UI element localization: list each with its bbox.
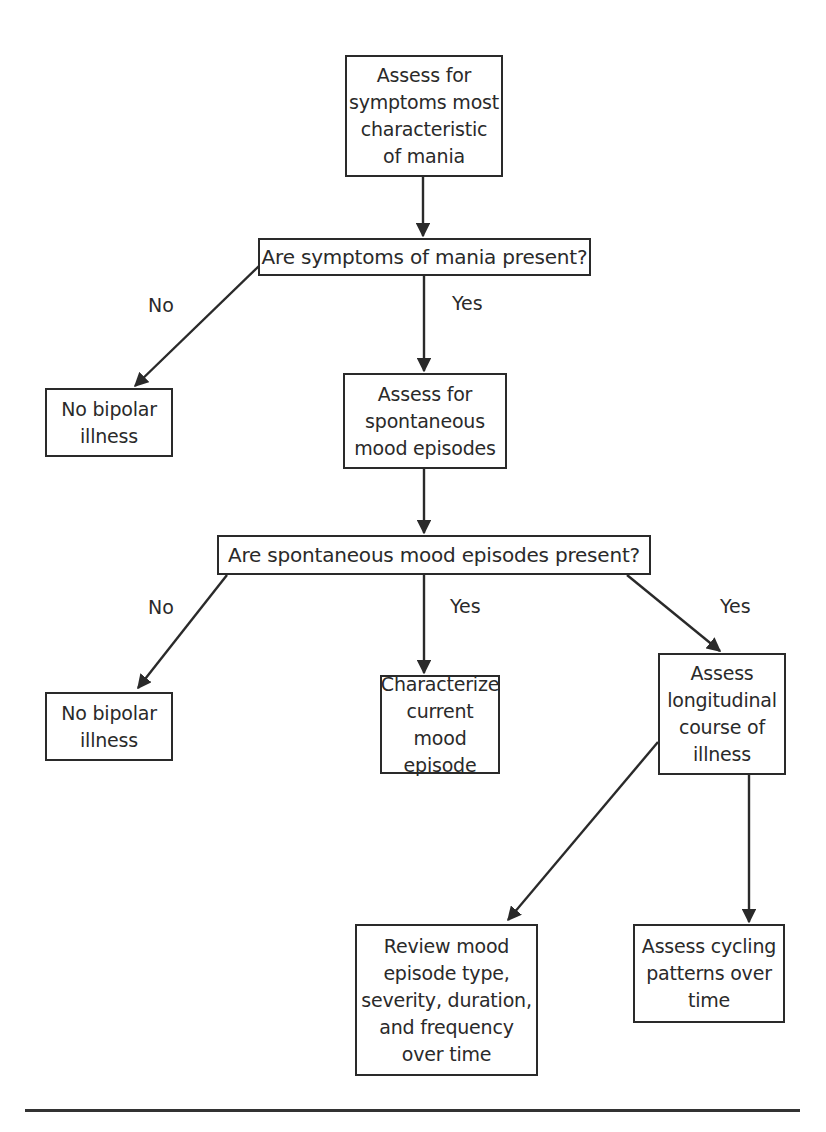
edge-label-yes-2-right: Yes bbox=[720, 595, 751, 617]
edge-label-no-2: No bbox=[148, 596, 174, 618]
arrow-q2-no bbox=[138, 575, 227, 688]
node-characterize-episode: Characterize current mood episode bbox=[380, 675, 500, 774]
edge-label-yes-2-center: Yes bbox=[450, 595, 481, 617]
decision-spontaneous-present: Are spontaneous mood episodes present? bbox=[217, 535, 651, 575]
node-longitudinal-course: Assess longitudinal course of illness bbox=[658, 653, 786, 775]
arrow-long-to-review bbox=[508, 742, 658, 920]
arrow-q2-yes-right bbox=[627, 575, 720, 651]
node-no-bipolar-1: No bipolar illness bbox=[45, 388, 173, 457]
decision-mania-present: Are symptoms of mania present? bbox=[258, 238, 591, 276]
edge-label-no-1: No bbox=[148, 294, 174, 316]
node-assess-mania: Assess for symptoms most characteristic … bbox=[345, 55, 503, 177]
edge-label-yes-1: Yes bbox=[452, 292, 483, 314]
bottom-divider bbox=[25, 1109, 800, 1112]
node-review-episodes: Review mood episode type, severity, dura… bbox=[355, 924, 538, 1076]
node-assess-spontaneous: Assess for spontaneous mood episodes bbox=[343, 373, 507, 469]
arrow-q1-no bbox=[135, 265, 260, 386]
node-cycling-patterns: Assess cycling patterns over time bbox=[633, 924, 785, 1023]
node-no-bipolar-2: No bipolar illness bbox=[45, 692, 173, 761]
